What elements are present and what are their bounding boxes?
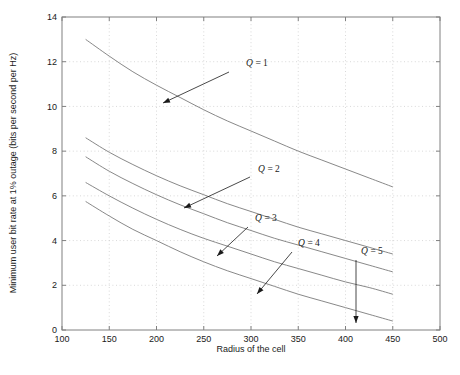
y-tick-labels: 02468101214 xyxy=(47,12,57,335)
y-tick-label: 2 xyxy=(52,280,57,290)
y-tick-label: 12 xyxy=(47,57,57,67)
x-axis-title: Radius of the cell xyxy=(216,344,285,354)
annotation-arrow-head xyxy=(184,203,191,208)
x-tick-label: 200 xyxy=(149,334,164,344)
series-line xyxy=(86,182,393,294)
annotation-arrow-line xyxy=(163,72,229,103)
y-axis-title: Minimum user bit rate at 1% outage (bits… xyxy=(8,53,18,294)
y-tick-label: 10 xyxy=(47,102,57,112)
x-tick-label: 100 xyxy=(54,334,69,344)
annotation-arrow-line xyxy=(184,177,250,208)
x-tick-label: 350 xyxy=(291,334,306,344)
x-tick-label: 500 xyxy=(432,334,447,344)
series-annotation-label: Q= 1 xyxy=(246,58,268,68)
annotation-arrow-head xyxy=(353,316,358,323)
annotation-arrow-head xyxy=(163,98,170,103)
minimum-bit-rate-vs-radius-chart: 100150200250300350400450500 02468101214 … xyxy=(0,0,460,375)
annotation-arrow-line xyxy=(257,252,292,294)
y-tick-label: 4 xyxy=(52,236,57,246)
x-tick-label: 450 xyxy=(385,334,400,344)
data-series-lines xyxy=(86,39,393,321)
y-tick-label: 0 xyxy=(52,325,57,335)
series-annotation-label: Q= 2 xyxy=(258,164,280,174)
y-tick-label: 6 xyxy=(52,191,57,201)
series-annotation-label: Q= 5 xyxy=(361,246,383,256)
x-tick-labels: 100150200250300350400450500 xyxy=(54,334,447,344)
chart-figure: 100150200250300350400450500 02468101214 … xyxy=(0,0,460,375)
annotation-arrow-head xyxy=(257,287,263,294)
x-tick-label: 400 xyxy=(338,334,353,344)
x-tick-label: 150 xyxy=(102,334,117,344)
x-tick-label: 250 xyxy=(196,334,211,344)
series-annotation-label: Q= 3 xyxy=(255,213,277,223)
y-tick-label: 8 xyxy=(52,146,57,156)
x-tick-label: 300 xyxy=(243,334,258,344)
series-line xyxy=(86,157,393,272)
series-annotation-label: Q= 4 xyxy=(298,238,320,248)
y-tick-label: 14 xyxy=(47,12,57,22)
series-line xyxy=(86,201,393,321)
